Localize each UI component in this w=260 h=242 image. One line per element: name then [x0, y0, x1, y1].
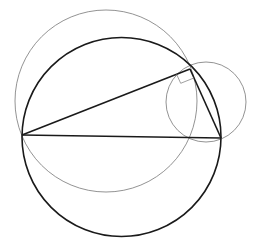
- side-ac: [22, 69, 190, 135]
- side-cb: [190, 69, 221, 138]
- large-thin-circle: [15, 10, 197, 192]
- side-ab: [22, 135, 221, 138]
- right-angle-mark: [177, 74, 195, 83]
- geometry-diagram: [0, 0, 260, 242]
